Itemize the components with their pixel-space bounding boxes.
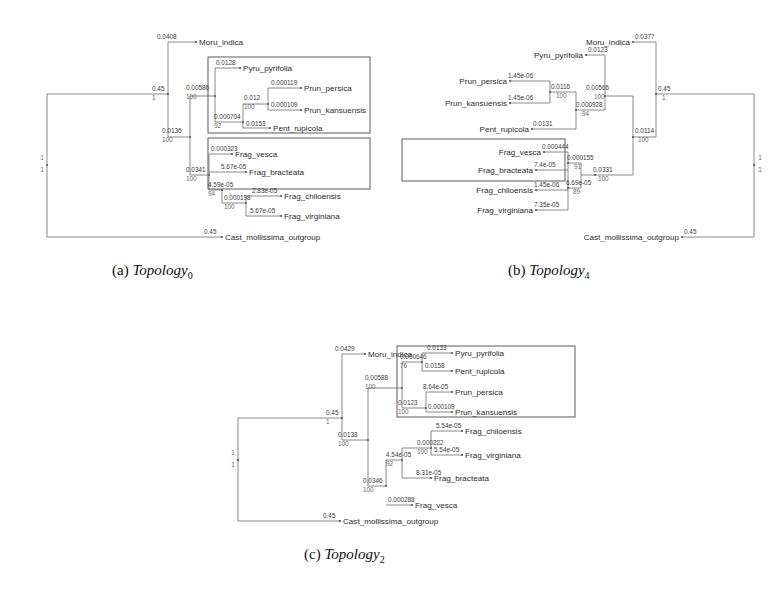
- panel-topology-2: 1 1 0.45 1 0.45 Cast_mollissima_outgroup…: [190, 300, 610, 540]
- pyru-blen-a: 0.0128: [216, 59, 236, 66]
- moru-node-a: [195, 41, 197, 43]
- persica-blen-b: 1.45e-06: [508, 72, 534, 79]
- fragaria-crown-blen-b: 0.0331: [593, 166, 613, 173]
- taxon-pent-rupicola-b: Pent_rupicola: [480, 125, 530, 134]
- pent-tip-node-b: [531, 128, 533, 130]
- taxon-frag-virginiana-a: Frag_virginiana: [284, 212, 340, 221]
- frag-bracteata-blen-a: 5.67e-05: [221, 163, 247, 170]
- root-split-supp-c: 1: [326, 418, 330, 425]
- taxon-moru-indica-a: Moru_indica: [199, 38, 244, 47]
- frag-sub2-supp-c: 100: [417, 448, 428, 455]
- kansuensis-node-c: [451, 411, 453, 413]
- taxon-pyru-pyrifolia-b: Pyru_pyrifolia: [534, 51, 584, 60]
- pyru-blen-b: 0.0123: [588, 46, 608, 53]
- frag-sub1-node-b: [567, 162, 569, 164]
- moru-node-b: [632, 41, 634, 43]
- fragaria-crown-blen-a: 0.0341: [186, 166, 206, 173]
- frag-vesca-node-a: [231, 153, 233, 155]
- persica-node-b: [509, 80, 511, 82]
- caption-c-name: Topology: [324, 546, 379, 562]
- prunus-supp-c: 100: [398, 408, 409, 415]
- taxon-pyru-pyrifolia-a: Pyru_pyrifolia: [243, 64, 293, 73]
- pent-blen-a: 0.0153: [246, 120, 266, 127]
- caption-panel-a: (a) Topology0: [112, 262, 193, 281]
- moru-crown-supp-a: 100: [186, 93, 197, 100]
- root-support-top-a: 1: [40, 154, 44, 161]
- cast-node-b: [681, 236, 683, 238]
- pent-blen-b: 0.0131: [533, 120, 553, 127]
- pent-node-blen-b: 0.000928: [576, 101, 603, 108]
- pent-node-supp-a: 92: [214, 122, 222, 129]
- frag-virginiana-blen-a: 5.67e-05: [250, 207, 276, 214]
- taxon-frag-chiloensis-c: Frag_chiloensis: [465, 427, 522, 436]
- caption-a-name: Topology: [132, 262, 187, 278]
- panel-topology-4: 1 1 0.45 1 0.45 Cast_mollissima_outgroup…: [390, 0, 779, 255]
- root-support-bottom-b: 1: [758, 166, 762, 173]
- frag-virginiana-blen-b: 7.35e-05: [534, 201, 560, 208]
- taxon-frag-virginiana-c: Frag_virginiana: [465, 451, 521, 460]
- frag-vesca-blen-c: 0.000288: [388, 496, 415, 503]
- fragaria-crown-supp-b: 100: [598, 175, 609, 182]
- frag-sub1-blen-c: 4.54e-05: [386, 451, 412, 458]
- taxon-pyru-pyrifolia-c: Pyru_pyrifolia: [455, 349, 505, 358]
- frag-sub1-blen-a: 4.59e-05: [208, 181, 234, 188]
- taxon-frag-virginiana-b: Frag_virginiana: [477, 206, 533, 215]
- caption-b-prefix: (b): [508, 262, 526, 278]
- root-support-bottom-a: 1: [40, 166, 44, 173]
- persica-blen-c: 8.64e-05: [423, 383, 449, 390]
- persica-node-c: [451, 391, 453, 393]
- frag-sub1-blen-b: 0.000155: [567, 154, 594, 161]
- persica-node-a: [300, 87, 302, 89]
- prunus-supp-b: 100: [556, 92, 567, 99]
- caption-a-prefix: (a): [112, 262, 129, 278]
- frag-sub2-blen-c: 0.000222: [417, 439, 444, 446]
- kansuensis-node-a: [300, 109, 302, 111]
- fragaria-crown-supp-c: 100: [363, 486, 374, 493]
- taxon-frag-vesca-c: Frag_vesca: [415, 501, 458, 510]
- frag-virginiana-node-a: [280, 215, 282, 217]
- pyru-node-a: [239, 67, 241, 69]
- cast-blen-b: 0.45: [684, 228, 697, 235]
- frag-bracteata-blen-b: 7.4e-05: [534, 161, 556, 168]
- prunus-blen-c: 0.0123: [398, 399, 418, 406]
- frag-chiloensis-blen-c: 5.54e-05: [436, 422, 462, 429]
- frag-virginiana-node-c: [461, 454, 463, 456]
- caption-c-sub: 2: [380, 554, 385, 565]
- kansuensis-node-b: [509, 102, 511, 104]
- frag-sub1-supp-c: 92: [386, 460, 394, 467]
- pyru-node-c: [451, 352, 453, 354]
- taxon-prun-kansuensis-b: Prun_kansuensis: [445, 99, 507, 108]
- frag-virginiana-node-b: [535, 209, 537, 211]
- fragaria-crown-supp-a: 100: [186, 175, 197, 182]
- pyru-blen-c: 0.0133: [427, 344, 447, 351]
- frag-bracteata-node-a: [245, 171, 247, 173]
- root-split-blen-c: 0.45: [326, 409, 339, 416]
- frag-sub2-supp-a: 100: [224, 203, 235, 210]
- kansuensis-blen-a: 0.000109: [271, 101, 298, 108]
- caption-a-sub: 0: [188, 270, 193, 281]
- caption-b-name: Topology: [529, 262, 584, 278]
- pent-node-c: [451, 370, 453, 372]
- moru-blen-c: 0.0429: [335, 345, 355, 352]
- frag-sub2-blen-b: 6.69e-05: [566, 179, 592, 186]
- root-node-b: [753, 164, 755, 166]
- frag-sub2-blen-a: 0.000198: [224, 194, 251, 201]
- frag-sub1-supp-b: 91: [574, 163, 582, 170]
- pyru-pent-supp-c: 76: [400, 362, 408, 369]
- taxon-prun-persica-c: Prun_persica: [455, 388, 503, 397]
- taxon-cast-mollissima-a: Cast_mollissima_outgroup: [225, 233, 321, 242]
- tree-svg-a: 1 1 0.45 1 0.45 Cast_mollissima_outgroup…: [0, 0, 400, 255]
- moru-crown-blen-c: 0.00588: [365, 374, 389, 381]
- pyru-node-b: [585, 54, 587, 56]
- kansuensis-blen-b: 1.45e-06: [508, 94, 534, 101]
- taxon-frag-vesca-a: Frag_vesca: [235, 150, 278, 159]
- moru-blen-a: 0.0408: [157, 33, 177, 40]
- taxon-pent-rupicola-a: Pent_rupicola: [273, 124, 323, 133]
- prunus-blen-b: 0.0116: [551, 83, 571, 90]
- frag-sub1-supp-a: 94: [208, 190, 216, 197]
- frag-vesca-node-b: [543, 151, 545, 153]
- frag-bracteata-node-b: [535, 169, 537, 171]
- tree-svg-b: 1 1 0.45 1 0.45 Cast_mollissima_outgroup…: [390, 0, 779, 255]
- root-split-supp-b: 1: [662, 94, 666, 101]
- rosoid-supp-a: 100: [162, 136, 173, 143]
